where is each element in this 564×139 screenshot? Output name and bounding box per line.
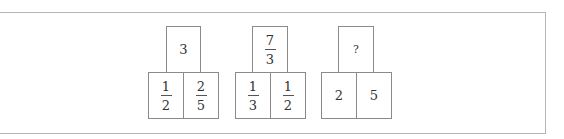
denominator: 2 [162, 96, 170, 112]
numerator: 1 [162, 80, 170, 95]
fraction: 1 2 [161, 80, 172, 112]
denominator: 5 [197, 96, 205, 112]
group1-top-box: 3 [166, 26, 201, 73]
unknown-value: ? [353, 43, 359, 56]
group3-bottom-right-box: 5 [356, 72, 392, 119]
group2-bottom-right-box: 1 2 [270, 72, 306, 119]
numerator: 7 [266, 34, 274, 49]
numerator: 1 [249, 80, 257, 95]
denominator: 3 [249, 96, 257, 112]
group3-bottom-left-value: 2 [335, 88, 343, 103]
group2-top-box: 7 3 [252, 26, 288, 73]
group3-bottom-right-value: 5 [370, 88, 378, 103]
group1-top-value: 3 [179, 42, 187, 57]
group2-bottom-left-box: 1 3 [235, 72, 271, 119]
numerator: 1 [284, 80, 292, 95]
fraction: 1 2 [283, 80, 294, 112]
fraction: 7 3 [265, 34, 276, 66]
group3-top-box: ? [338, 26, 374, 73]
denominator: 2 [284, 96, 292, 112]
group1-bottom-left-box: 1 2 [148, 72, 184, 119]
denominator: 3 [266, 50, 274, 66]
fraction: 2 5 [196, 80, 207, 112]
fraction: 1 3 [248, 80, 259, 112]
group1-bottom-right-box: 2 5 [183, 72, 219, 119]
group3-bottom-left-box: 2 [321, 72, 357, 119]
numerator: 2 [197, 80, 205, 95]
